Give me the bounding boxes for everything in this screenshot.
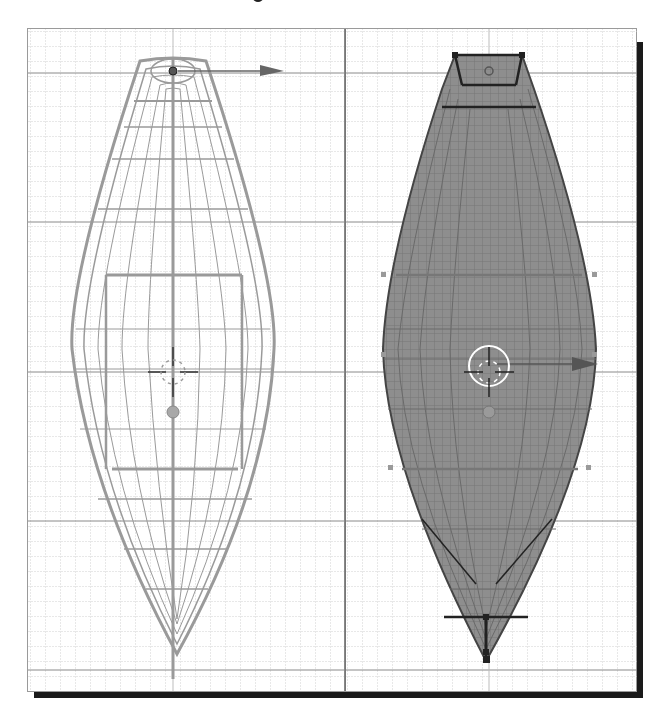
object-origin-icon[interactable] — [169, 67, 177, 75]
figure-frame — [27, 28, 637, 692]
viewport-left-wireframe[interactable] — [28, 29, 344, 691]
viewport-right-selected[interactable] — [345, 29, 637, 691]
viewport-right-canvas[interactable] — [346, 29, 637, 691]
cropped-text-glyph — [253, 0, 263, 2]
grid-floor — [28, 29, 344, 691]
pivot-point-icon — [483, 406, 495, 418]
pivot-point-icon — [167, 406, 179, 418]
frame-shadow-bottom — [34, 692, 643, 698]
frame-shadow-right — [637, 42, 643, 698]
viewport-left-canvas[interactable] — [28, 29, 344, 691]
